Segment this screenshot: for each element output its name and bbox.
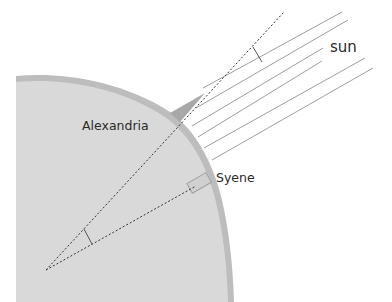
sun-ray	[203, 12, 342, 88]
label-alexandria: Alexandria	[82, 118, 149, 133]
sun-rays	[192, 12, 373, 160]
diagram-stage: Alexandria Syene sun	[0, 0, 392, 302]
label-sun: sun	[330, 38, 357, 56]
gnomon-shadow	[170, 93, 205, 122]
sun-ray	[192, 48, 323, 126]
sun-ray	[198, 61, 322, 137]
label-syene: Syene	[216, 170, 255, 185]
